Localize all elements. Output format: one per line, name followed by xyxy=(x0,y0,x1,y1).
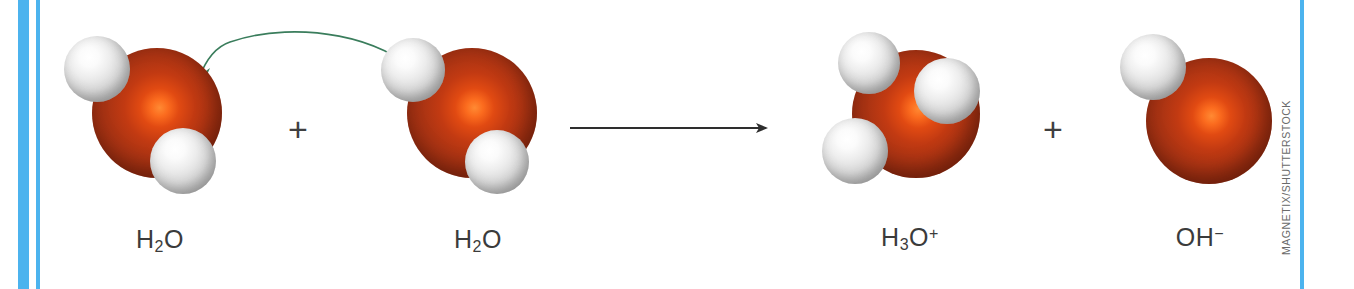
hydrogen-atom xyxy=(838,32,900,94)
photo-credit: MAGNETIX/SHUTTERSTOCK xyxy=(1280,100,1292,255)
hydrogen-atom xyxy=(64,36,130,102)
hydrogen-atom xyxy=(381,38,445,102)
electron-transfer-arrow xyxy=(190,32,413,93)
hydrogen-atom xyxy=(465,130,529,194)
hydrogen-atom xyxy=(1120,34,1186,100)
hydrogen-atom xyxy=(150,128,216,194)
hydrogen-atom xyxy=(914,58,980,124)
hydrogen-atom xyxy=(822,118,888,184)
figure-canvas: H2O + H2O H3O+ + OH− xyxy=(0,0,1354,289)
